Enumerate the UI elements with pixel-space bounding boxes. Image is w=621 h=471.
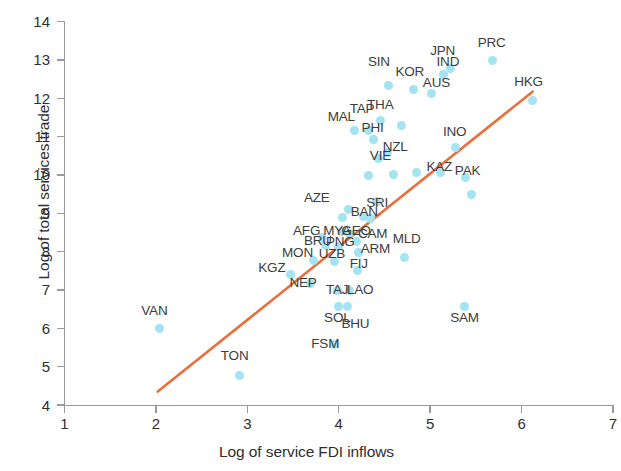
point-label-aus: AUS: [423, 76, 450, 90]
data-point-van: [155, 324, 164, 333]
y-tick-label: 4: [16, 398, 50, 413]
data-point-ton: [235, 371, 244, 380]
data-point-phi: [369, 135, 378, 144]
y-tick-mark: [57, 98, 65, 99]
data-point: [389, 170, 398, 179]
point-label-afg: AFG: [293, 224, 320, 238]
y-tick-mark: [57, 213, 65, 214]
x-tick-label: 3: [232, 416, 262, 431]
y-tick-mark: [57, 21, 65, 22]
point-label-cam: CAM: [358, 227, 387, 241]
x-tick-mark: [612, 405, 613, 413]
point-label-sin: SIN: [368, 55, 390, 69]
point-label-mld: MLD: [393, 232, 421, 246]
point-label-phi: PHI: [362, 121, 384, 135]
point-label-tha: THA: [367, 98, 393, 112]
point-label-vie: VIE: [370, 149, 391, 163]
x-tick-label: 4: [324, 416, 354, 431]
data-point-mld: [400, 253, 409, 262]
y-tick-label: 10: [16, 167, 50, 182]
data-point: [467, 190, 476, 199]
point-label-nep: NEP: [289, 276, 316, 290]
x-tick-mark: [155, 405, 156, 413]
y-tick-label: 14: [16, 14, 50, 29]
point-label-hkg: HKG: [514, 75, 543, 89]
x-tick-mark: [429, 405, 430, 413]
point-label-sri: SRI: [366, 196, 388, 210]
y-tick-mark: [57, 328, 65, 329]
point-label-arm: ARM: [361, 242, 390, 256]
y-tick-label: 9: [16, 206, 50, 221]
y-tick-mark: [57, 366, 65, 367]
point-label-taj: TAJ: [326, 283, 348, 297]
point-label-sam: SAM: [450, 311, 479, 325]
x-tick-label: 5: [415, 416, 445, 431]
y-tick-mark: [57, 174, 65, 175]
point-label-fij: FIJ: [350, 257, 368, 271]
point-label-ino: INO: [443, 125, 466, 139]
y-tick-label: 5: [16, 359, 50, 374]
y-tick-label: 8: [16, 244, 50, 259]
point-label-kaz: KAZ: [427, 160, 453, 174]
data-point: [397, 121, 406, 130]
x-tick-mark: [64, 405, 65, 413]
y-tick-label: 12: [16, 91, 50, 106]
x-tick-label: 2: [141, 416, 171, 431]
point-label-bhu: BHU: [341, 317, 369, 331]
point-label-kor: KOR: [395, 65, 424, 79]
point-label-uzb: UZB: [319, 247, 345, 261]
point-label-ind: IND: [437, 55, 460, 69]
x-tick-label: 6: [507, 416, 537, 431]
x-tick-mark: [338, 405, 339, 413]
x-tick-label: 1: [50, 416, 80, 431]
y-tick-label: 13: [16, 52, 50, 67]
data-point: [338, 213, 347, 222]
y-tick-label: 11: [16, 129, 50, 144]
data-point-kor: [409, 85, 418, 94]
y-tick-mark: [57, 59, 65, 60]
point-label-van: VAN: [141, 304, 167, 318]
data-point: [412, 168, 421, 177]
data-point-aus: [427, 89, 436, 98]
data-point-mal: [350, 126, 359, 135]
x-tick-label: 7: [598, 416, 621, 431]
x-tick-mark: [247, 405, 248, 413]
y-tick-mark: [57, 251, 65, 252]
point-label-prc: PRC: [478, 36, 506, 50]
data-point-prc: [488, 56, 497, 65]
y-tick-mark: [57, 289, 65, 290]
y-tick-mark: [57, 136, 65, 137]
y-tick-label: 6: [16, 321, 50, 336]
point-label-aze: AZE: [304, 191, 330, 205]
point-label-kgz: KGZ: [258, 261, 285, 275]
data-point-hkg: [528, 96, 537, 105]
point-label-lao: LAO: [347, 283, 373, 297]
data-point-sin: [384, 81, 393, 90]
y-tick-label: 7: [16, 282, 50, 297]
data-point-ino: [451, 143, 460, 152]
x-axis-title: Log of service FDI inflows: [0, 443, 613, 461]
point-label-fsm: FSM: [311, 337, 339, 351]
x-tick-mark: [521, 405, 522, 413]
data-point: [364, 171, 373, 180]
point-label-ton: TON: [221, 349, 249, 363]
point-label-pak: PAK: [455, 164, 480, 178]
